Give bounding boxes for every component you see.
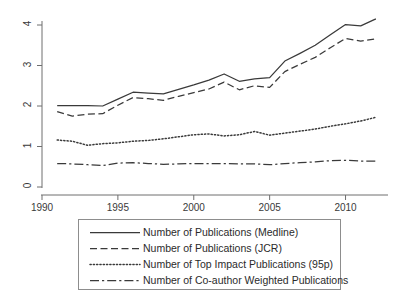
legend-label: Number of Top Impact Publications (95p) <box>143 259 333 270</box>
legend-item: Number of Co-author Weighted Publication… <box>79 272 340 289</box>
x-tick-label: 1995 <box>98 202 138 213</box>
legend-key-dashdot <box>87 272 143 289</box>
legend-key-dashed <box>87 240 143 257</box>
legend-label: Number of Publications (Medline) <box>143 227 298 238</box>
series-line-4 <box>57 160 376 165</box>
y-tick-label: 4 <box>22 17 33 31</box>
x-tick-label: 2005 <box>250 202 290 213</box>
x-tick-label: 2010 <box>326 202 366 213</box>
y-tick-label: 2 <box>22 98 33 112</box>
legend-line-sample <box>87 240 143 257</box>
legend-line-sample <box>87 224 143 241</box>
publications-trend-chart: 01234 19901995200020052010 Number of Pub… <box>0 0 410 298</box>
y-tick-label: 1 <box>22 138 33 152</box>
legend-item: Number of Publications (Medline) <box>79 224 340 241</box>
legend-line-sample <box>87 256 143 273</box>
chart-legend: Number of Publications (Medline)Number o… <box>78 219 341 290</box>
y-tick-label: 0 <box>22 179 33 193</box>
legend-key-solid <box>87 224 143 241</box>
legend-label: Number of Co-author Weighted Publication… <box>143 275 348 286</box>
series-line-1 <box>57 19 376 106</box>
x-tick-label: 1990 <box>22 202 62 213</box>
series-line-3 <box>57 117 376 145</box>
legend-label: Number of Publications (JCR) <box>143 243 282 254</box>
legend-key-dotted <box>87 256 143 273</box>
legend-line-sample <box>87 272 143 289</box>
x-tick-label: 2000 <box>174 202 214 213</box>
y-tick-label: 3 <box>22 57 33 71</box>
axis-layer <box>37 21 388 200</box>
series-layer <box>57 19 376 166</box>
legend-item: Number of Top Impact Publications (95p) <box>79 256 340 273</box>
legend-item: Number of Publications (JCR) <box>79 240 340 257</box>
